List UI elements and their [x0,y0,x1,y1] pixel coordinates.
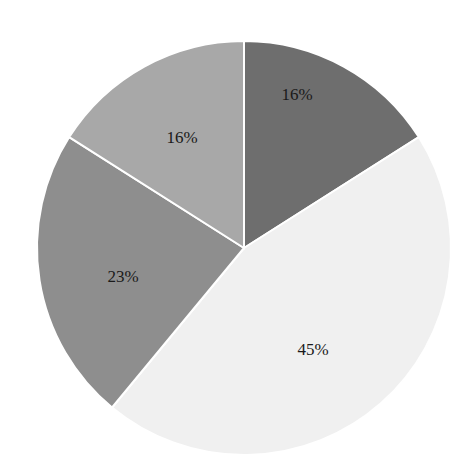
pie-slices [37,41,451,455]
slice-label-3: 16% [166,128,197,147]
slice-label-2: 23% [107,267,138,286]
pie-chart: 16% 45% 23% 16% [0,0,474,470]
slice-label-1: 45% [297,340,328,359]
slice-label-0: 16% [281,85,312,104]
